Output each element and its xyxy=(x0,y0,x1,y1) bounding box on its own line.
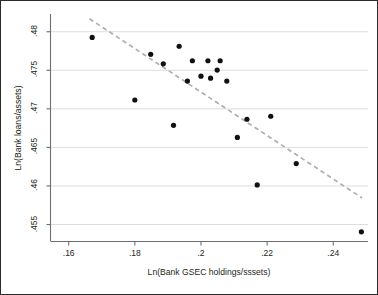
scatter-plot-canvas xyxy=(1,1,378,295)
data-point xyxy=(218,58,223,63)
data-point xyxy=(148,52,153,57)
data-point xyxy=(215,67,220,72)
y-tick-label: .465 xyxy=(29,135,39,157)
data-point xyxy=(177,44,182,49)
data-point xyxy=(359,229,364,234)
x-axis-title: Ln(Bank GSEC holdings/sssets) xyxy=(148,267,271,277)
data-points xyxy=(90,35,364,235)
x-tick-label: .24 xyxy=(327,248,339,258)
data-point xyxy=(198,74,203,79)
data-point xyxy=(244,117,249,122)
plot-axes xyxy=(51,14,369,242)
data-point xyxy=(205,58,210,63)
data-point xyxy=(255,182,260,187)
x-tick-label: .18 xyxy=(129,248,141,258)
y-tick-label: .475 xyxy=(29,58,39,80)
data-point xyxy=(294,161,299,166)
x-tick-label: .2 xyxy=(197,248,204,258)
y-axis-title: Ln(Bank loans/assets) xyxy=(13,73,23,183)
data-point xyxy=(171,123,176,128)
data-point xyxy=(161,61,166,66)
y-tick-label: .47 xyxy=(29,97,39,119)
y-axis-ticks xyxy=(47,32,51,225)
y-tick-label: .48 xyxy=(29,20,39,42)
chart-figure: .16.18.2.22.24 .455.46.465.47.475.48 Ln(… xyxy=(0,0,378,295)
x-axis-ticks xyxy=(69,242,334,246)
y-tick-label: .455 xyxy=(29,213,39,235)
x-tick-label: .22 xyxy=(261,248,273,258)
data-point xyxy=(224,78,229,83)
x-tick-label: .16 xyxy=(63,248,75,258)
data-point xyxy=(190,58,195,63)
data-point xyxy=(235,135,240,140)
y-tick-label: .46 xyxy=(29,174,39,196)
regression-dashed-line xyxy=(90,19,363,198)
data-point xyxy=(268,114,273,119)
data-point xyxy=(185,78,190,83)
data-point xyxy=(90,35,95,40)
data-point xyxy=(208,76,213,81)
trendline xyxy=(90,19,363,198)
data-point xyxy=(132,97,137,102)
